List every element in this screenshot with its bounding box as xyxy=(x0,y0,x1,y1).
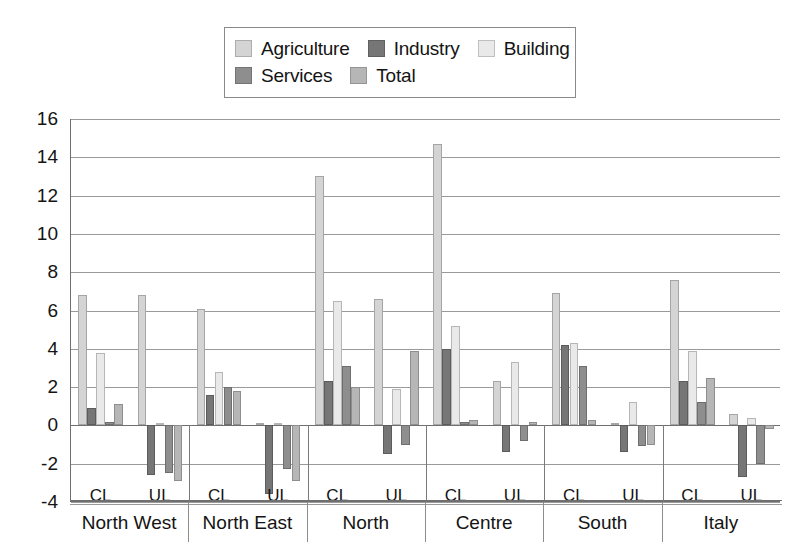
chart-root: Agriculture Industry Building Services T… xyxy=(0,0,797,552)
legend-item-building: Building xyxy=(478,39,570,58)
y-axis-tick: 6 xyxy=(47,301,58,320)
y-axis-tick: 10 xyxy=(37,224,58,243)
y-axis: 1614121086420-2-4 xyxy=(0,0,66,552)
legend-label-total: Total xyxy=(376,66,415,85)
region-separator xyxy=(662,502,663,542)
x-axis-group-label: Centre xyxy=(425,513,543,532)
legend-swatch-total-icon xyxy=(350,67,367,84)
y-axis-tick: 16 xyxy=(37,109,58,128)
x-axis-region-labels: North WestNorth EastNorthCentreSouthItal… xyxy=(70,502,780,542)
y-axis-tick: 0 xyxy=(47,415,58,434)
legend-label-building: Building xyxy=(504,39,570,58)
y-axis-tick: -2 xyxy=(41,454,58,473)
sub-axis-labels: CLULCLULCLULCLULCLULCLUL xyxy=(71,119,780,501)
region-separator xyxy=(425,502,426,542)
chart-legend: Agriculture Industry Building Services T… xyxy=(224,27,576,98)
x-axis-group-label: North East xyxy=(188,513,306,532)
plot-area: CLULCLULCLULCLULCLULCLUL xyxy=(70,119,780,502)
legend-row-1: Agriculture Industry Building xyxy=(235,35,565,62)
legend-label-services: Services xyxy=(261,66,332,85)
region-separator xyxy=(188,502,189,542)
legend-item-industry: Industry xyxy=(368,39,460,58)
y-axis-tick: 4 xyxy=(47,339,58,358)
region-separator xyxy=(307,502,308,542)
legend-swatch-agriculture-icon xyxy=(235,40,252,57)
y-axis-tick: 2 xyxy=(47,377,58,396)
legend-label-agriculture: Agriculture xyxy=(261,39,350,58)
legend-item-agriculture: Agriculture xyxy=(235,39,350,58)
x-axis-group-label: South xyxy=(543,513,661,532)
legend-row-2: Services Total xyxy=(235,62,565,89)
legend-swatch-industry-icon xyxy=(368,40,385,57)
x-axis-group-label: Italy xyxy=(662,513,780,532)
x-axis-group-label: North xyxy=(307,513,425,532)
y-axis-tick: 12 xyxy=(37,186,58,205)
y-axis-tick: 8 xyxy=(47,262,58,281)
y-axis-tick: -4 xyxy=(41,492,58,511)
legend-item-services: Services xyxy=(235,66,332,85)
region-separator xyxy=(543,502,544,542)
legend-swatch-services-icon xyxy=(235,67,252,84)
x-axis-group-label: North West xyxy=(70,513,188,532)
legend-item-total: Total xyxy=(350,66,415,85)
legend-label-industry: Industry xyxy=(394,39,460,58)
legend-swatch-building-icon xyxy=(478,40,495,57)
y-axis-tick: 14 xyxy=(37,147,58,166)
